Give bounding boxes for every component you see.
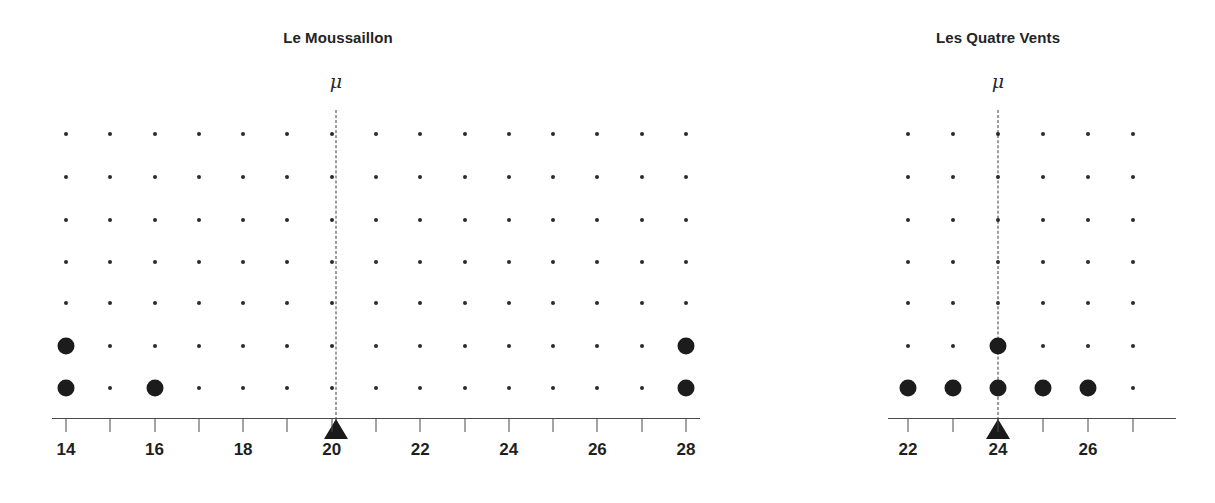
grid-dot-24-5 <box>996 218 1000 222</box>
grid-dot-24-6 <box>996 175 1000 179</box>
grid-dot-26-6 <box>595 175 599 179</box>
grid-dot-25-2 <box>1041 344 1045 348</box>
grid-dot-23-2 <box>463 344 467 348</box>
x-tick-19 <box>287 419 288 432</box>
mu-dashed-line-right <box>998 110 999 420</box>
grid-dot-28-6 <box>684 175 688 179</box>
grid-dot-17-6 <box>197 175 201 179</box>
x-tick-17 <box>198 419 199 432</box>
x-tick-25 <box>553 419 554 432</box>
grid-dot-26-5 <box>595 218 599 222</box>
grid-dot-23-2 <box>951 344 955 348</box>
mu-label-right: μ <box>992 70 1004 92</box>
x-tick-23 <box>464 419 465 432</box>
grid-dot-24-4 <box>996 260 1000 264</box>
grid-dot-18-2 <box>241 344 245 348</box>
grid-dot-16-4 <box>153 260 157 264</box>
grid-dot-26-6 <box>1086 175 1090 179</box>
grid-dot-20-3 <box>330 301 334 305</box>
grid-dot-16-7 <box>153 132 157 136</box>
data-dot-26-1 <box>1080 380 1097 397</box>
grid-dot-17-4 <box>197 260 201 264</box>
grid-dot-24-7 <box>996 132 1000 136</box>
data-dot-25-1 <box>1035 380 1052 397</box>
grid-dot-17-1 <box>197 386 201 390</box>
x-tick-label-20: 20 <box>322 440 341 460</box>
grid-dot-21-4 <box>374 260 378 264</box>
x-tick-label-24: 24 <box>989 440 1008 460</box>
grid-dot-22-3 <box>418 301 422 305</box>
grid-dot-22-7 <box>418 132 422 136</box>
grid-dot-24-5 <box>507 218 511 222</box>
grid-dot-15-2 <box>108 344 112 348</box>
grid-dot-22-7 <box>906 132 910 136</box>
grid-dot-27-2 <box>1131 344 1135 348</box>
x-tick-27 <box>641 419 642 432</box>
grid-dot-24-3 <box>507 301 511 305</box>
grid-dot-14-7 <box>64 132 68 136</box>
grid-dot-25-4 <box>1041 260 1045 264</box>
grid-dot-28-4 <box>684 260 688 264</box>
data-dot-23-1 <box>945 380 962 397</box>
x-tick-16 <box>154 419 155 432</box>
grid-dot-21-3 <box>374 301 378 305</box>
x-tick-22 <box>908 419 909 432</box>
x-tick-18 <box>243 419 244 432</box>
grid-dot-26-4 <box>595 260 599 264</box>
grid-dot-17-3 <box>197 301 201 305</box>
grid-dot-22-3 <box>906 301 910 305</box>
grid-dot-21-7 <box>374 132 378 136</box>
x-tick-15 <box>110 419 111 432</box>
x-tick-label-26: 26 <box>1079 440 1098 460</box>
x-tick-26 <box>597 419 598 432</box>
grid-dot-26-3 <box>1086 301 1090 305</box>
grid-dot-22-5 <box>418 218 422 222</box>
grid-dot-23-5 <box>463 218 467 222</box>
grid-dot-22-1 <box>418 386 422 390</box>
grid-dot-20-2 <box>330 344 334 348</box>
x-tick-label-18: 18 <box>234 440 253 460</box>
grid-dot-20-6 <box>330 175 334 179</box>
grid-dot-18-1 <box>241 386 245 390</box>
data-dot-24-2 <box>990 337 1007 354</box>
grid-dot-17-5 <box>197 218 201 222</box>
data-dot-22-1 <box>900 380 917 397</box>
grid-dot-25-6 <box>551 175 555 179</box>
grid-dot-23-5 <box>951 218 955 222</box>
grid-dot-24-2 <box>507 344 511 348</box>
grid-dot-25-6 <box>1041 175 1045 179</box>
grid-dot-22-2 <box>906 344 910 348</box>
grid-dot-17-2 <box>197 344 201 348</box>
grid-dot-19-6 <box>285 175 289 179</box>
mu-triangle-marker-left <box>324 419 348 439</box>
grid-dot-23-1 <box>463 386 467 390</box>
x-tick-28 <box>685 419 686 432</box>
mu-label-left: μ <box>330 70 342 92</box>
panel-le-moussaillon: Le Moussaillon μ 1416182022242628 <box>0 0 760 503</box>
x-tick-23 <box>953 419 954 432</box>
grid-dot-26-2 <box>1086 344 1090 348</box>
x-tick-label-16: 16 <box>145 440 164 460</box>
grid-dot-20-5 <box>330 218 334 222</box>
grid-dot-23-7 <box>463 132 467 136</box>
grid-dot-27-5 <box>1131 218 1135 222</box>
x-tick-label-24: 24 <box>499 440 518 460</box>
grid-dot-15-6 <box>108 175 112 179</box>
grid-dot-27-1 <box>1131 386 1135 390</box>
grid-dot-27-4 <box>1131 260 1135 264</box>
x-tick-label-14: 14 <box>57 440 76 460</box>
grid-dot-22-4 <box>418 260 422 264</box>
grid-dot-25-1 <box>551 386 555 390</box>
grid-dot-14-5 <box>64 218 68 222</box>
x-tick-27 <box>1133 419 1134 432</box>
x-tick-label-26: 26 <box>588 440 607 460</box>
data-dot-14-1 <box>58 380 75 397</box>
grid-dot-26-5 <box>1086 218 1090 222</box>
x-tick-22 <box>420 419 421 432</box>
grid-dot-27-3 <box>640 301 644 305</box>
grid-dot-27-3 <box>1131 301 1135 305</box>
grid-dot-18-5 <box>241 218 245 222</box>
grid-dot-14-4 <box>64 260 68 264</box>
grid-dot-23-7 <box>951 132 955 136</box>
grid-dot-25-7 <box>1041 132 1045 136</box>
